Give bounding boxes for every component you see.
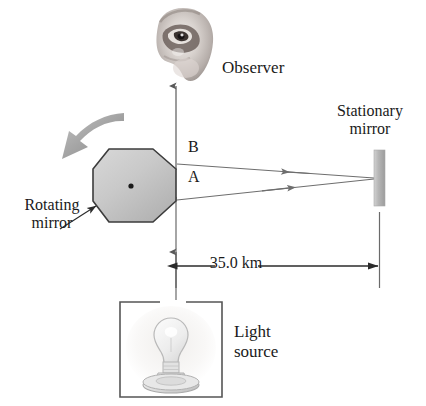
distance-label: 35.0 km xyxy=(210,254,262,272)
figure-canvas: Observer Stationary mirror Rotating mirr… xyxy=(0,0,426,406)
light-source-label: Light source xyxy=(234,322,278,362)
eye-icon xyxy=(156,8,213,81)
ray-b-line xyxy=(177,164,374,178)
observer-label: Observer xyxy=(222,58,284,77)
ray-b-arrow xyxy=(285,172,310,174)
light-bulb-icon xyxy=(119,301,223,398)
ray-a-label: A xyxy=(188,168,200,186)
ray-a-arrow xyxy=(262,188,292,191)
octagon-mirror-icon xyxy=(93,149,176,222)
light-ray-path xyxy=(177,164,374,200)
ray-b-label: B xyxy=(188,138,199,156)
stationary-mirror-label: Stationary mirror xyxy=(318,102,422,138)
rotating-mirror-label: Rotating mirror xyxy=(4,196,100,232)
octagon-center-dot xyxy=(128,183,133,188)
mirror-bar-icon xyxy=(374,150,385,206)
